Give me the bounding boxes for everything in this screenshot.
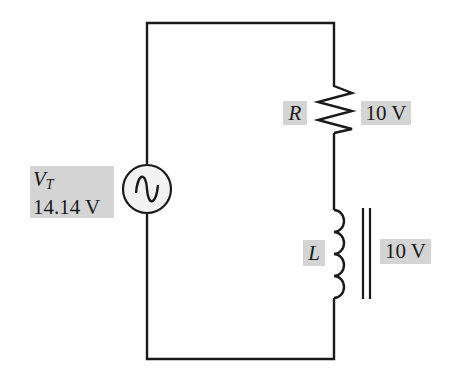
ac-source-icon — [123, 165, 171, 213]
source-symbol: VT — [33, 168, 114, 196]
inductor-icon — [334, 210, 344, 298]
source-label: VT 14.14 V — [30, 166, 114, 218]
wire-left-bottom — [147, 213, 334, 359]
resistor-voltage-label: 10 V — [361, 101, 411, 125]
iron-core-icon — [363, 208, 370, 299]
inductor-symbol-label: L — [303, 240, 325, 266]
inductor-voltage-label: 10 V — [380, 239, 431, 264]
source-voltage: 14.14 V — [33, 195, 100, 219]
resistor-icon — [318, 83, 352, 133]
wire-left-top — [147, 23, 334, 165]
resistor-symbol-label: R — [283, 101, 307, 125]
